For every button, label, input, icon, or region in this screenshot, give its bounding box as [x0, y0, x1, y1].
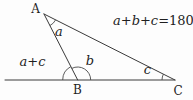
angle-label-b: b [86, 53, 94, 68]
angle-arc-exterior [63, 67, 71, 80]
angle-label-a: a [55, 24, 63, 39]
angle-label-exterior: a+c [20, 54, 47, 69]
vertex-label-a: A [30, 2, 40, 16]
triangle-exterior-angle-figure: A B C a b c a+c a+b+c=180° [0, 0, 193, 100]
angle-label-c: c [144, 62, 152, 77]
equation-rhs: 180° [169, 13, 193, 28]
vertex-label-b: B [73, 83, 82, 97]
angle-sum-equation: a+b+c=180° [113, 13, 193, 28]
vertex-label-c: C [173, 84, 182, 98]
triangle-diagram-svg: A B C a b c a+c a+b+c=180° [0, 0, 193, 100]
equation-lhs: a+b+c= [113, 13, 169, 28]
angle-arc-c [162, 74, 163, 80]
